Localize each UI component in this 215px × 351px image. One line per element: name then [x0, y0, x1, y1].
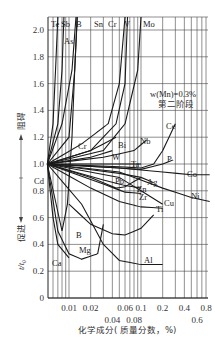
curve-label-p: P [167, 154, 172, 164]
y-tick-label: 2.0 [33, 25, 45, 35]
y-tick-label: 1.4 [33, 105, 45, 115]
x-tick-label: 0.02 [83, 303, 99, 313]
curve-label-ti: Ti [156, 204, 164, 214]
curve-label-ce: Ce [166, 121, 176, 131]
y-tick-label: 1.2 [33, 132, 44, 142]
y-label-hinder: 阻碍 [16, 112, 26, 130]
annotation-stage: 第二阶段 [158, 99, 194, 109]
curve-label-bi: Bi [118, 140, 127, 150]
y-tick-label: 0.2 [33, 266, 44, 276]
x-tick-label: 0.4 [179, 303, 191, 313]
curve-label-zr: Zr [139, 192, 147, 202]
chart: 00.20.40.60.81.01.21.41.61.82.00.010.020… [0, 0, 215, 351]
curve-label-w: W [112, 152, 120, 162]
curve-v [47, 17, 127, 164]
curve-label-ag: Ag [147, 177, 158, 187]
curve-label-al: Al [144, 255, 153, 265]
annotation-mn: w(Mn)=0.3% [150, 89, 196, 99]
x-tick-label: 0.04 [104, 315, 120, 325]
curve-label-mg: Mg [79, 245, 92, 255]
y-label-promote: 促进 [16, 224, 26, 242]
curve-label-cd: Cd [34, 176, 45, 186]
x-tick-label: 0.1 [135, 303, 146, 313]
curve-label-cu: Cu [164, 198, 175, 208]
curve-label-as: As [64, 36, 73, 46]
curve-label-co: Co [187, 169, 197, 179]
grid [48, 17, 208, 298]
x-axis-label: 化学成分( 质量分数，%) [78, 325, 176, 335]
y-tick-label: 1.8 [33, 52, 45, 62]
y-tick-label: 0.8 [33, 186, 45, 196]
y-tick-label: 0.4 [33, 239, 45, 249]
curve-label-ta: Ta [131, 159, 140, 169]
x-tick-label: 0.6 [191, 315, 203, 325]
x-tick-label: 0.06 [117, 303, 133, 313]
x-tick-label: 0.8 [200, 303, 212, 313]
x-tick-label: 0.08 [126, 315, 142, 325]
y-tick-label: 1.0 [33, 159, 45, 169]
x-tick-label: 0.2 [157, 303, 168, 313]
curve-label-v: V [124, 19, 131, 29]
y-direction-indicator [19, 134, 23, 223]
curve-label-pb: Pb [115, 176, 124, 186]
curve-mg [47, 164, 103, 259]
curve-label-nb: Nb [140, 136, 150, 146]
curve-label-cr: Cr [108, 19, 117, 29]
y-axis-label: t/t₀ [16, 260, 26, 270]
y-tick-label: 0.6 [33, 213, 45, 223]
curve-label-te: Te [51, 19, 60, 29]
curve-label-sb: Sb [61, 19, 70, 29]
curve-label-b: B [76, 230, 82, 240]
arrow-up-icon [19, 134, 23, 140]
y-tick-label: 1.6 [33, 79, 45, 89]
curve-label-sn: Sn [94, 19, 104, 29]
curves [47, 17, 209, 265]
curve-label-ca: Ca [52, 258, 62, 268]
curve-label-cr: Cr [78, 141, 87, 151]
arrow-down-icon [19, 217, 23, 223]
x-tick-label: 0.01 [61, 303, 77, 313]
curve-label-mo: Mo [143, 19, 155, 29]
curve-label-b: B [76, 19, 82, 29]
y-tick-label: 0 [40, 293, 45, 303]
curve-label-ni: Ni [191, 191, 200, 201]
